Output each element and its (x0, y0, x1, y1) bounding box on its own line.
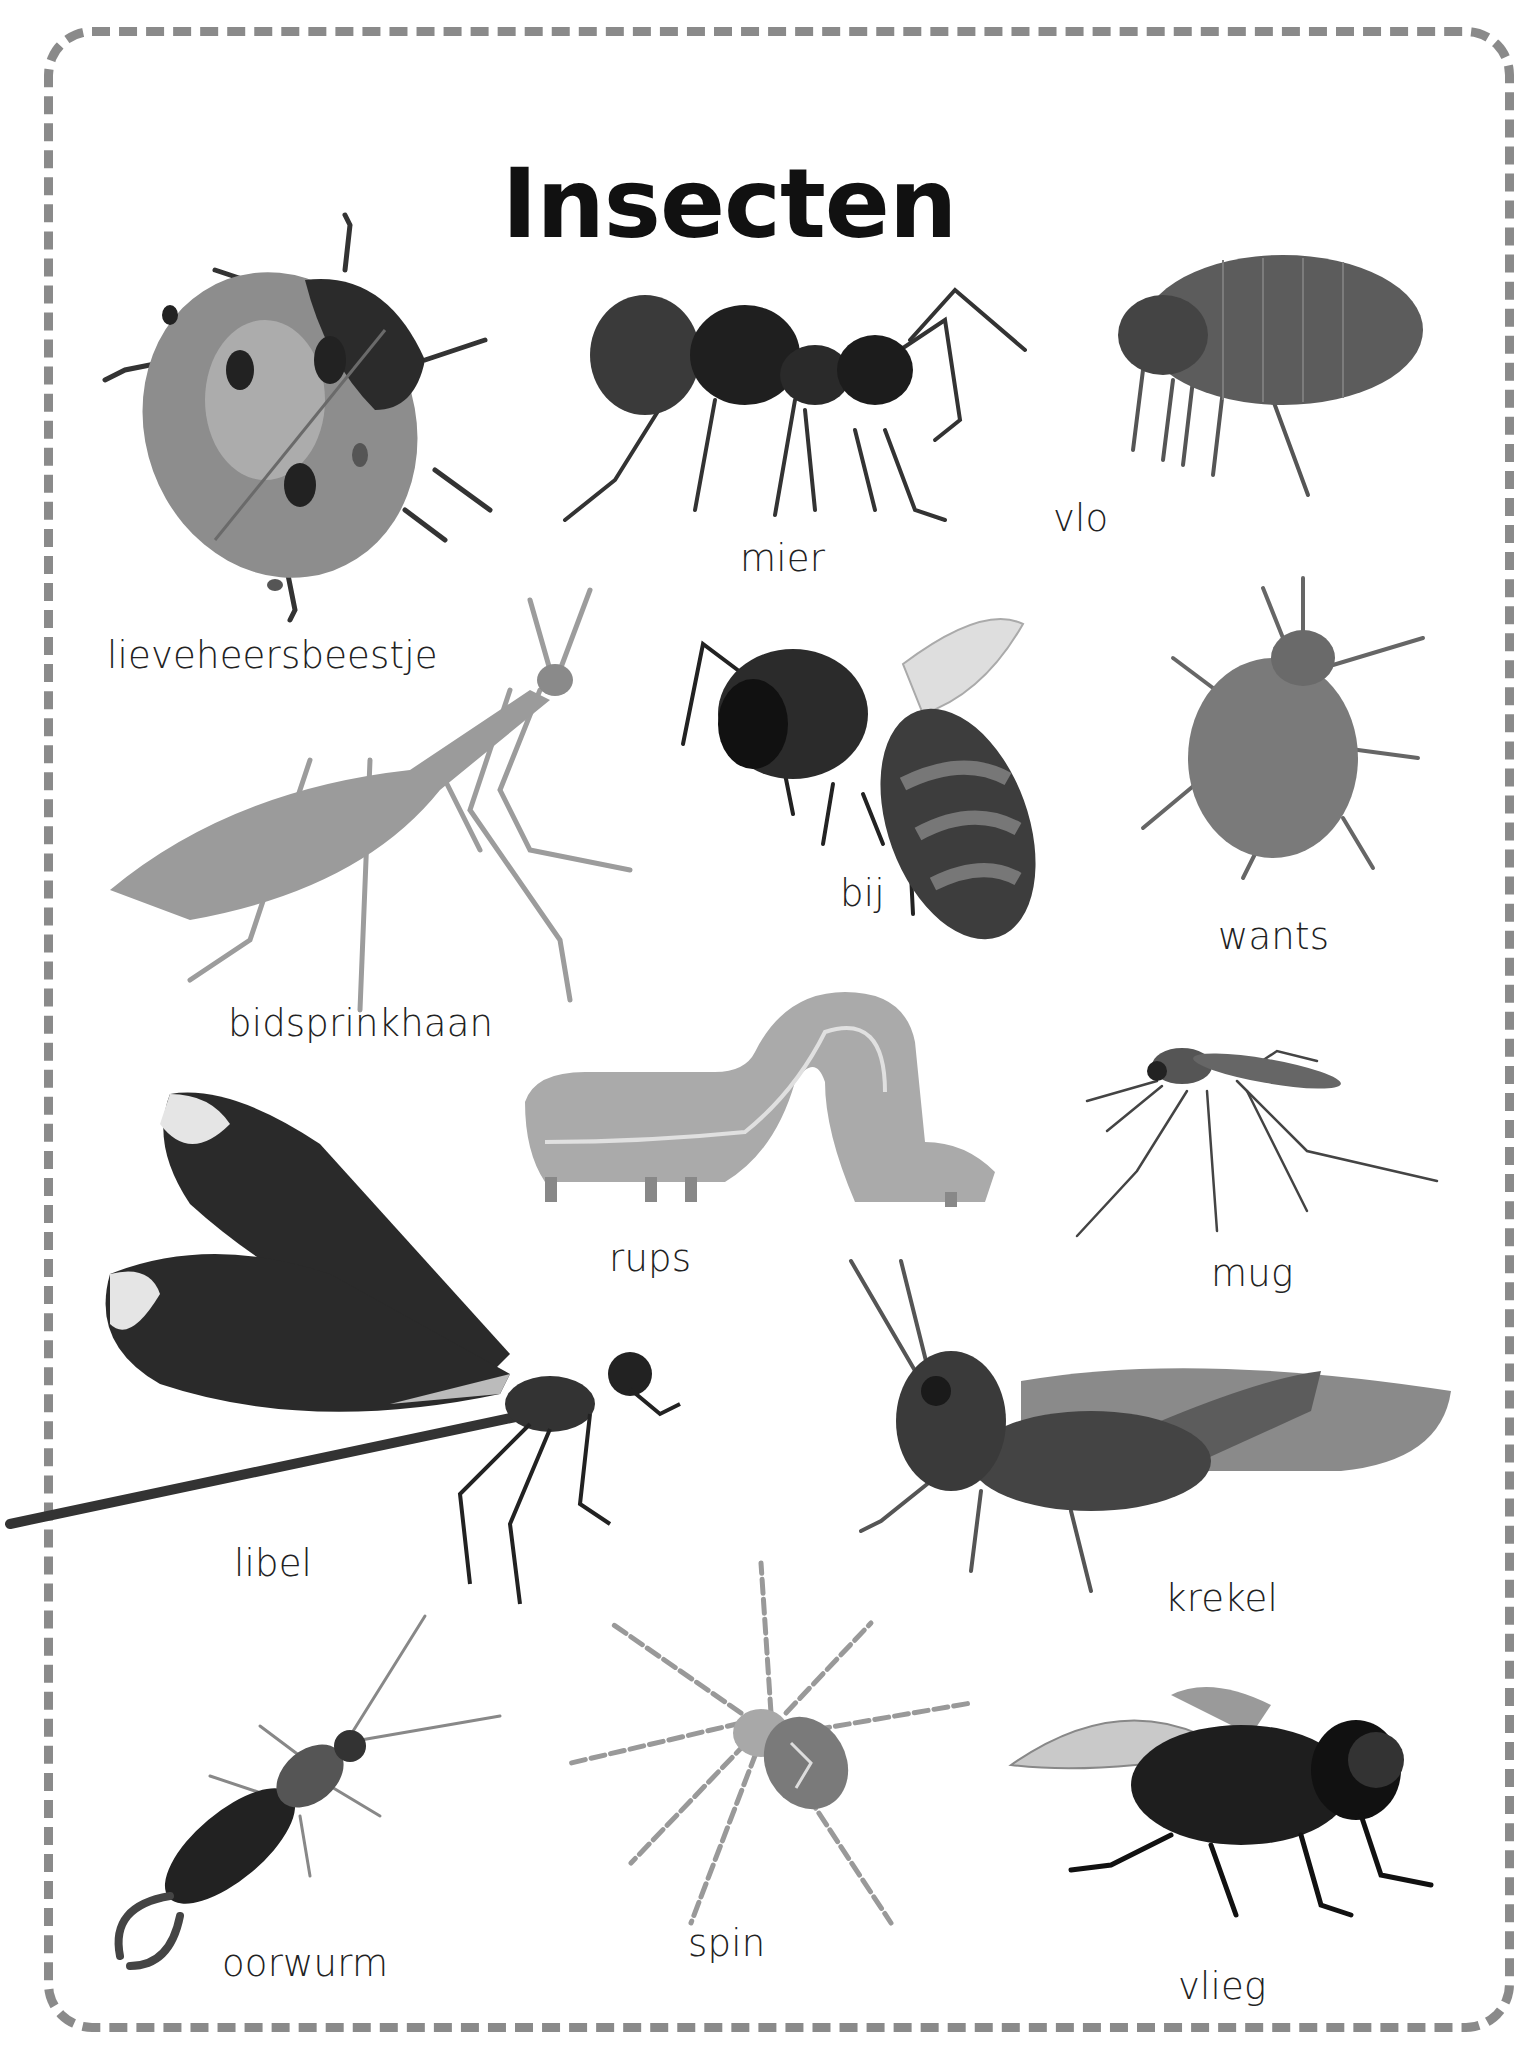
mosquito-image (1077, 1011, 1447, 1241)
stink-bug-image (1143, 578, 1428, 883)
spider-image (571, 1563, 976, 1933)
label-wants: wants (1218, 918, 1329, 955)
fly-image (1011, 1675, 1458, 1915)
ant-image (555, 280, 1045, 530)
label-bidsprinkhaan: bidsprinkhaan (228, 1005, 493, 1042)
flea-image (1103, 250, 1423, 495)
label-vlo: vlo (1053, 500, 1108, 537)
label-oorwurm: oorwurm (222, 1945, 388, 1982)
label-mier: mier (740, 540, 825, 577)
dragonfly-image (10, 1084, 695, 1604)
label-libel: libel (234, 1545, 312, 1582)
label-vlieg: vlieg (1178, 1968, 1266, 2005)
mantis-image (110, 590, 670, 1000)
grasshopper-image (841, 1261, 1458, 1586)
label-spin: spin (688, 1925, 765, 1962)
ladybug-image (105, 210, 505, 620)
label-krekel: krekel (1165, 1580, 1278, 1617)
label-bij: bij (840, 875, 885, 912)
earwig-image (110, 1616, 510, 1971)
